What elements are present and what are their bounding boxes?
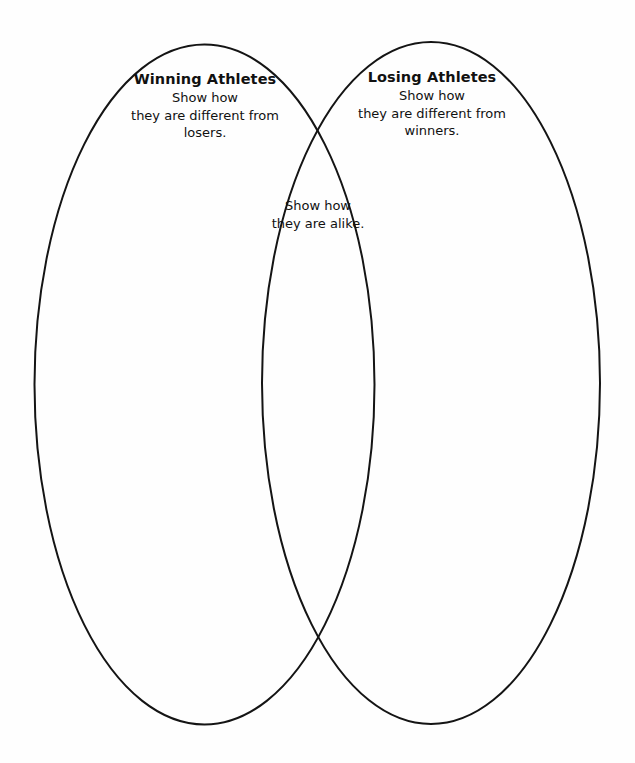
right-set-body-line-1: Show how: [302, 87, 562, 105]
right-set-body: Show how they are different from winners…: [302, 87, 562, 140]
left-set-body-line-1: Show how: [74, 89, 336, 107]
left-set-label-group: Winning Athletes Show how they are diffe…: [74, 70, 336, 142]
venn-diagram-worksheet: Winning Athletes Show how they are diffe…: [0, 0, 635, 763]
right-set-label-group: Losing Athletes Show how they are differ…: [302, 68, 562, 140]
left-set-heading: Winning Athletes: [74, 70, 336, 89]
left-set-body: Show how they are different from losers.: [74, 89, 336, 142]
intersection-body-line-2: they are alike.: [248, 215, 388, 233]
intersection-body: Show how they are alike.: [248, 197, 388, 233]
left-set-body-line-3: losers.: [74, 124, 336, 142]
intersection-body-line-1: Show how: [248, 197, 388, 215]
intersection-label-group: Show how they are alike.: [248, 197, 388, 233]
right-set-body-line-2: they are different from: [302, 105, 562, 123]
right-set-body-line-3: winners.: [302, 122, 562, 140]
left-set-body-line-2: they are different from: [74, 107, 336, 125]
right-set-heading: Losing Athletes: [302, 68, 562, 87]
